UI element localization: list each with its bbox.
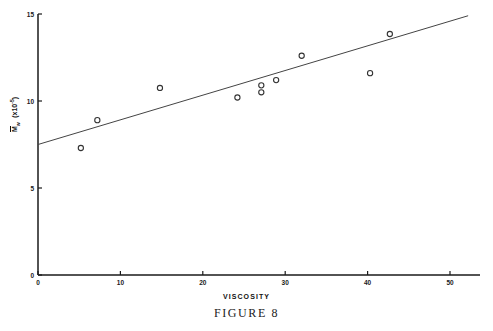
data-point	[387, 31, 392, 36]
data-point	[259, 90, 264, 95]
figure-caption: FIGURE 8	[0, 306, 493, 321]
y-axis-exponent: -5	[9, 99, 15, 103]
x-tick-label: 30	[282, 279, 289, 286]
x-tick-label: 0	[36, 279, 40, 286]
data-point	[78, 145, 83, 150]
y-axis-unit-close: )	[11, 97, 18, 99]
regression-line	[38, 16, 468, 145]
y-axis-subscript: w	[15, 122, 21, 126]
y-axis-unit-open: (x10	[11, 104, 18, 118]
data-point	[157, 85, 162, 90]
data-point	[367, 71, 372, 76]
y-tick-label: 10	[20, 98, 34, 105]
data-point	[95, 118, 100, 123]
y-tick-label: 0	[20, 272, 34, 279]
x-tick-label: 20	[199, 279, 206, 286]
figure-container: 01020304050 051015 VISCOSITY Mw (x10-5) …	[0, 0, 493, 331]
data-point	[259, 83, 264, 88]
x-tick-label: 40	[364, 279, 371, 286]
data-point-markers	[78, 31, 392, 150]
data-point	[299, 53, 304, 58]
chart-svg	[0, 0, 493, 331]
data-point	[235, 95, 240, 100]
x-tick-label: 10	[117, 279, 124, 286]
y-tick-label: 5	[20, 185, 34, 192]
y-axis-title: Mw (x10-5)	[9, 97, 21, 132]
chart-plot-area: 01020304050 051015	[0, 0, 493, 331]
x-tick-label: 50	[446, 279, 453, 286]
x-axis-title: VISCOSITY	[0, 293, 493, 300]
y-axis-symbol: M	[10, 126, 18, 132]
y-tick-label: 15	[20, 11, 34, 18]
data-point	[274, 78, 279, 83]
